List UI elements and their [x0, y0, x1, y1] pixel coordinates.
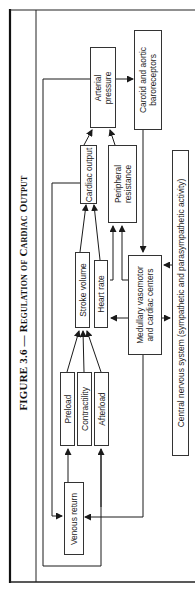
node-label: Cardiac output [84, 147, 94, 201]
node-label: Contractility [80, 387, 90, 431]
node-contractility: Contractility [77, 372, 92, 446]
node-label: Heart rate [96, 275, 106, 312]
figure-title-prefix: FIGURE 3.6 — [17, 332, 29, 410]
node-label: Preload [63, 395, 73, 424]
node-venous-return: Venous return [64, 482, 84, 555]
node-arterial-pressure: Arterial pressure [90, 47, 116, 128]
node-heart-rate: Heart rate [94, 260, 108, 328]
node-label: Central nervous system (sympathetic and … [176, 179, 186, 428]
node-preload: Preload [60, 372, 75, 446]
figure-title-main: Regulation of Cardiac Output [17, 175, 29, 332]
node-label: Arterial pressure [93, 71, 113, 104]
node-cardiac-output: Cardiac output [80, 145, 97, 204]
node-peripheral-resistance: Peripheral resistance [108, 145, 137, 223]
node-label: Stroke volume [78, 263, 88, 317]
node-medullary-centers: Medullary vasomotor and cardiac centers [128, 255, 162, 355]
node-central-nervous-system: Central nervous system (sympathetic and … [172, 150, 189, 456]
node-baroreceptors: Carotid and aortic baroreceptors [134, 30, 162, 130]
node-label: Venous return [69, 492, 79, 544]
node-afterload: Afterload [94, 372, 109, 446]
node-stroke-volume: Stroke volume [75, 252, 90, 328]
node-label: Peripheral resistance [113, 165, 133, 203]
node-label: Medullary vasomotor and cardiac centers [135, 266, 155, 344]
node-label: Afterload [97, 392, 107, 426]
figure-frame: FIGURE 3.6 — Regulation of Cardiac Outpu… [0, 0, 195, 604]
node-label: Carotid and aortic baroreceptors [138, 47, 158, 113]
figure-title: FIGURE 3.6 — Regulation of Cardiac Outpu… [17, 175, 29, 410]
